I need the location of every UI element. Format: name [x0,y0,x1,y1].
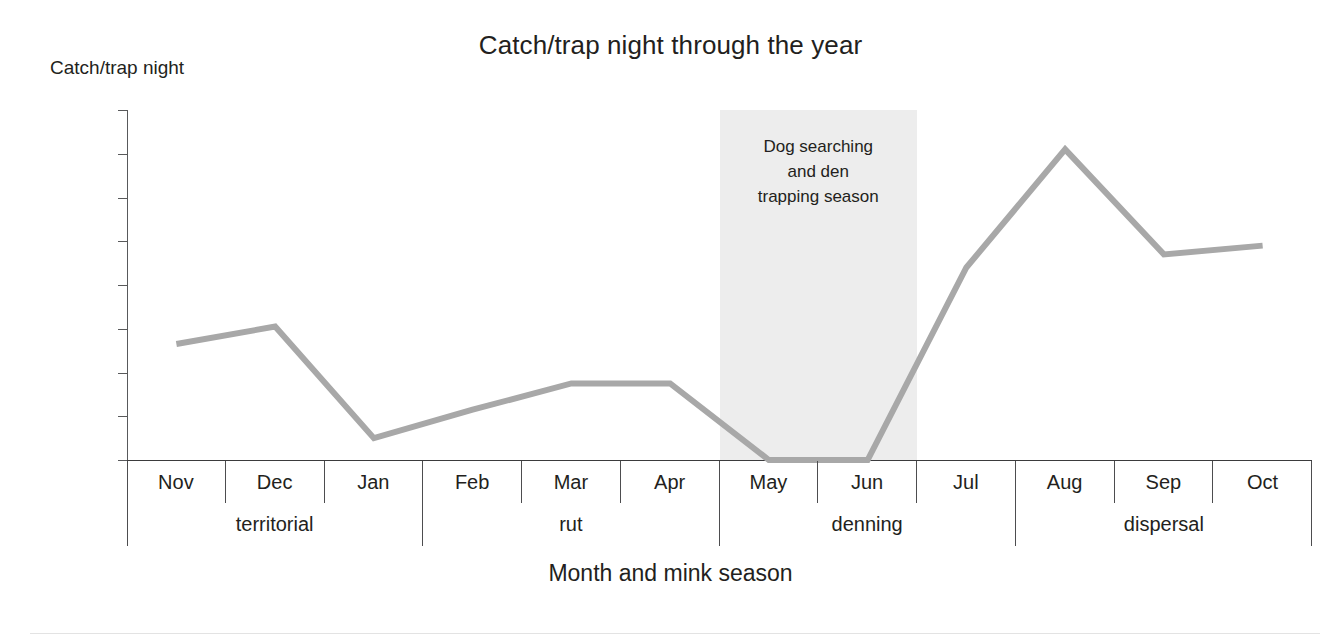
y-axis-tick [118,460,127,461]
y-axis-tick [118,198,127,199]
month-cell-nov: Nov [127,461,226,503]
x-axis-table: NovDecJanFebMarAprMayJunJulAugSepOct ter… [127,461,1312,546]
season-cell-rut: rut [423,503,719,546]
chart-figure: Catch/trap night through the year Catch/… [0,0,1341,642]
data-line-chart [127,110,1312,460]
y-axis-tick [118,154,127,155]
month-label-row: NovDecJanFebMarAprMayJunJulAugSepOct [127,461,1312,503]
bottom-divider [30,633,1320,634]
y-axis-tick [118,416,127,417]
month-cell-jul: Jul [917,461,1016,503]
month-cell-mar: Mar [522,461,621,503]
month-cell-dec: Dec [226,461,325,503]
month-cell-feb: Feb [423,461,522,503]
season-label-row: territorialrutdenningdispersal [127,503,1312,546]
chart-title: Catch/trap night through the year [0,30,1341,61]
month-cell-sep: Sep [1115,461,1214,503]
month-cell-jan: Jan [325,461,424,503]
y-axis-tick [118,329,127,330]
month-cell-aug: Aug [1016,461,1115,503]
season-cell-territorial: territorial [127,503,423,546]
y-axis-caption: Catch/trap night [50,57,184,79]
month-cell-apr: Apr [621,461,720,503]
season-cell-denning: denning [720,503,1016,546]
catch-per-trap-night-series [176,149,1262,460]
month-cell-jun: Jun [818,461,917,503]
month-cell-may: May [720,461,819,503]
plot-area: Dog searchingand dentrapping season0.013… [127,110,1312,460]
y-axis-tick [118,110,127,111]
y-axis-tick [118,285,127,286]
y-axis-tick [118,241,127,242]
month-cell-oct: Oct [1213,461,1312,503]
x-axis-caption: Month and mink season [0,560,1341,587]
y-axis-tick [118,373,127,374]
season-cell-dispersal: dispersal [1016,503,1312,546]
